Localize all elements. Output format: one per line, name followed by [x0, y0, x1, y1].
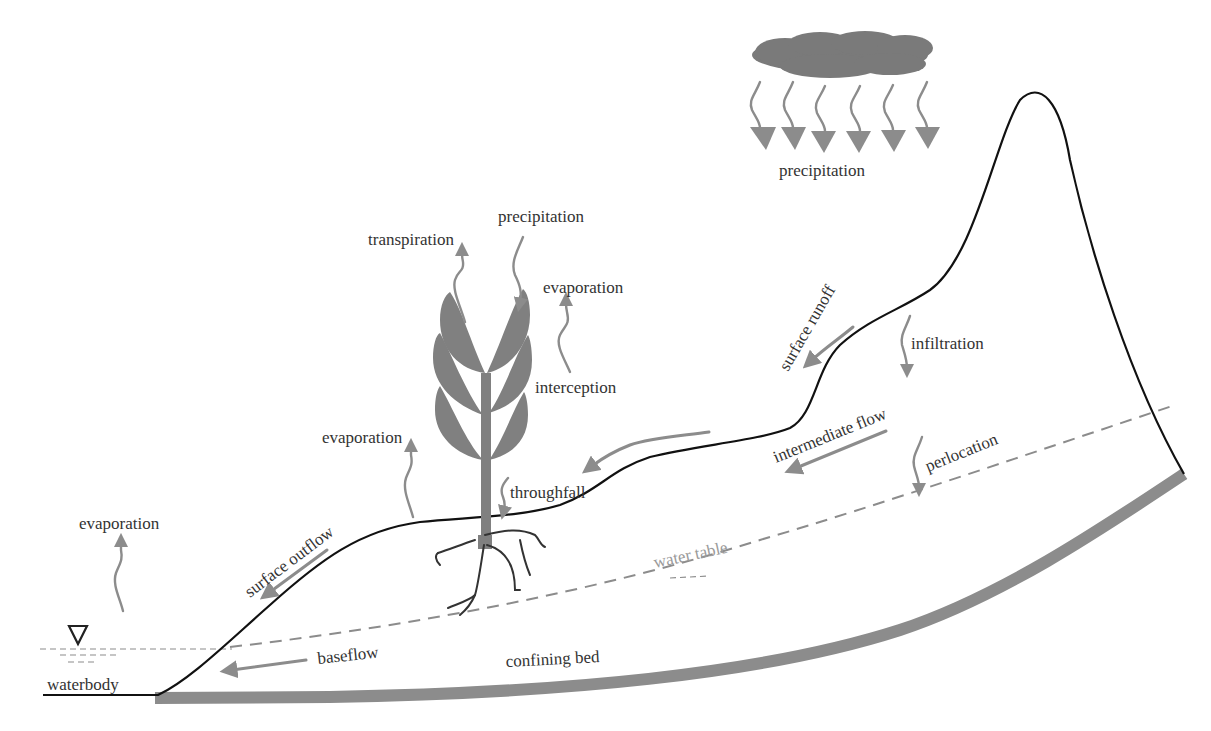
throughfall-arrow — [502, 478, 508, 510]
water-table-marker-dashes — [670, 576, 710, 578]
cloud-icon — [752, 31, 933, 78]
throughfall-label: throughfall — [510, 483, 586, 502]
baseflow-arrow — [232, 660, 306, 670]
inverted-triangle-icon — [69, 626, 87, 644]
evaporation-ground-arrow — [405, 448, 413, 517]
water-table-label: water table — [652, 538, 729, 572]
perlocation-arrow — [914, 437, 922, 487]
confining-bed-label: confining bed — [505, 647, 600, 671]
precipitation-plant-arrow — [513, 237, 523, 302]
evaporation-waterbody-label: evaporation — [79, 514, 160, 533]
rain-arrows — [750, 82, 940, 153]
infiltration-label: infiltration — [911, 334, 984, 353]
perlocation-label: perlocation — [922, 429, 1000, 475]
interception-label: interception — [535, 378, 617, 397]
confining-bed-layer — [155, 474, 1184, 698]
precipitation-plant-label: precipitation — [498, 207, 584, 226]
plant-icon — [433, 289, 532, 549]
evaporation-canopy-arrow — [559, 302, 570, 372]
transpiration-label: transpiration — [368, 230, 454, 249]
infiltration-arrow — [902, 316, 910, 368]
evaporation-canopy-label: evaporation — [543, 278, 624, 297]
precipitation-cloud-label: precipitation — [779, 161, 865, 180]
evaporation-ground-label: evaporation — [322, 428, 403, 447]
baseflow-label: baseflow — [316, 643, 380, 668]
waterbody-label: waterbody — [47, 675, 119, 694]
evaporation-waterbody-arrow — [115, 543, 123, 611]
hydrological-cycle-diagram: precipitation transpiration precipitatio… — [0, 0, 1211, 731]
